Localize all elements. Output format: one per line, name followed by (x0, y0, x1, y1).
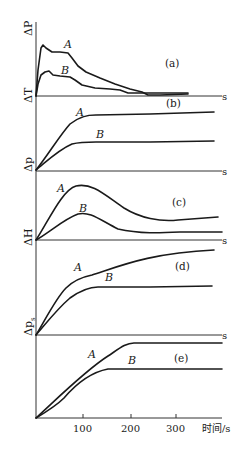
panel-b-label-A: A (75, 106, 84, 119)
panel-a-curve-A (36, 45, 188, 96)
panel-d-label-B: B (104, 271, 113, 284)
panel-d-label-A: A (73, 261, 82, 274)
panel-a: A B (a) ΔP s (22, 20, 227, 102)
panel-d: A B (d) ΔH s (22, 228, 227, 341)
panel-b-curve-B (36, 141, 214, 170)
panel-a-label-B: B (60, 64, 69, 77)
panel-c-ylabel: Δp (22, 157, 35, 172)
x-tick-label-100: 100 (73, 423, 92, 434)
x-tick-label-200: 200 (121, 423, 140, 434)
panel-a-ylabel: ΔP (22, 20, 35, 36)
panel-a-label-A: A (63, 38, 72, 51)
panel-c-tag: (c) (172, 196, 186, 208)
panel-d-ylabel: ΔH (22, 228, 35, 246)
panel-a-unit: s (222, 91, 227, 102)
panel-e-ylabel: Δps (22, 317, 37, 336)
panel-b: A B (b) ΔT s (22, 87, 227, 177)
panel-a-tag: (a) (165, 57, 179, 69)
panel-d-unit: s (222, 330, 227, 341)
x-axis-label: 时间/s (202, 422, 231, 434)
panel-b-unit: s (222, 166, 227, 177)
panel-d-tag: (d) (175, 260, 190, 272)
panel-b-ylabel: ΔT (22, 87, 35, 103)
panel-e-curve-B (36, 369, 222, 418)
panel-c-unit: s (222, 235, 227, 246)
panel-e-label-B: B (127, 354, 136, 367)
multi-panel-response-figure: A B (a) ΔP s A B (b) ΔT s A B (c) Δp s A… (0, 0, 250, 453)
x-tick-label-300: 300 (166, 423, 185, 434)
panel-c: A B (c) Δp s (22, 157, 227, 246)
figure-svg: A B (a) ΔP s A B (b) ΔT s A B (c) Δp s A… (0, 0, 250, 453)
panel-c-curve-B (36, 213, 222, 240)
panel-c-label-B: B (78, 202, 87, 215)
panel-e-tag: (e) (174, 352, 188, 364)
panel-c-label-A: A (56, 182, 65, 195)
panel-e-label-A: A (87, 348, 96, 361)
panel-b-label-B: B (95, 128, 104, 141)
panel-b-tag: (b) (166, 97, 181, 109)
